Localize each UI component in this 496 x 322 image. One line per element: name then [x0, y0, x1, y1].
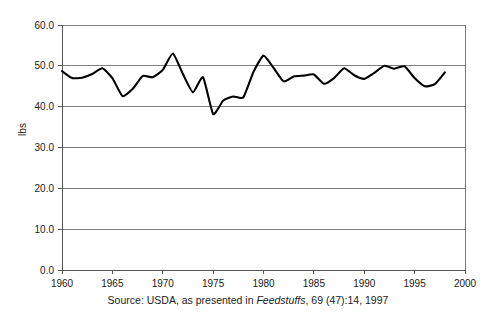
x-tick-label-1970: 1970: [152, 278, 175, 289]
x-tick-label-1985: 1985: [303, 278, 326, 289]
y-tick-label-40: 40.0: [35, 101, 55, 112]
x-tick-label-1980: 1980: [252, 278, 275, 289]
line-chart: 60.050.040.030.020.010.00.01960196519701…: [0, 0, 496, 322]
chart-figure: 60.050.040.030.020.010.00.01960196519701…: [0, 0, 496, 322]
y-tick-label-0: 0.0: [40, 265, 54, 276]
y-tick-label-20: 20.0: [35, 183, 55, 194]
x-tick-label-1995: 1995: [404, 278, 427, 289]
y-tick-label-10: 10.0: [35, 224, 55, 235]
x-tick-label-1960: 1960: [51, 278, 74, 289]
y-axis-title: lbs: [17, 123, 28, 136]
caption-prefix: Source: USDA, as presented in: [108, 294, 257, 306]
y-tick-label-30: 30.0: [35, 142, 55, 153]
y-tick-label-50: 50.0: [35, 60, 55, 71]
x-tick-label-2000: 2000: [454, 278, 477, 289]
y-tick-label-60: 60.0: [35, 20, 55, 31]
caption-publication: Feedstuffs: [256, 294, 305, 306]
x-tick-label-1990: 1990: [353, 278, 376, 289]
x-tick-label-1965: 1965: [101, 278, 124, 289]
x-tick-label-1975: 1975: [202, 278, 225, 289]
caption-suffix: , 69 (47):14, 1997: [305, 294, 388, 306]
series-line-lbs: [62, 54, 445, 115]
source-caption: Source: USDA, as presented in Feedstuffs…: [0, 294, 496, 306]
